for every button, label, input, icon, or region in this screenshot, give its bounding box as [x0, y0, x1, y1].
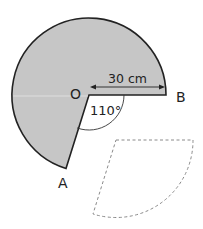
dashed-cutout-sector — [93, 140, 193, 218]
label-o: O — [70, 86, 81, 102]
angle-label: 110° — [90, 103, 121, 118]
major-sector — [12, 18, 166, 168]
radius-label: 30 cm — [108, 71, 147, 86]
sector-diagram: O B A 30 cm 110° — [0, 0, 203, 229]
label-b: B — [176, 89, 186, 105]
label-a: A — [58, 175, 68, 191]
